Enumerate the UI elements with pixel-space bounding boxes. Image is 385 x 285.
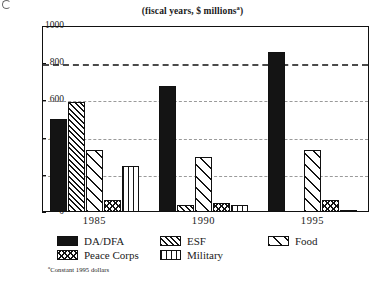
bar-1985-da-dfa <box>50 119 68 212</box>
y-axis-tick-label-800: 800 <box>30 58 64 68</box>
chart-legend: DA/DFAESFFoodPeace CorpsMilitary <box>57 234 367 262</box>
legend-label: ESF <box>187 236 206 247</box>
y-axis-tick-mark-400 <box>42 138 46 139</box>
bar-1995-military <box>340 210 358 212</box>
legend-swatch-solid-black-icon <box>57 236 78 246</box>
legend-swatch-vertical-lines-icon <box>160 250 181 260</box>
gridline-600 <box>43 101 368 102</box>
legend-item-da-dfa[interactable]: DA/DFA <box>57 236 160 247</box>
bar-1990-food <box>195 157 213 212</box>
bar-1985-food <box>86 150 104 212</box>
y-axis-tick-mark-800 <box>42 63 46 64</box>
chart-title-text: (fiscal years, $ millions <box>142 6 237 16</box>
legend-item-esf[interactable]: ESF <box>160 236 268 247</box>
legend-row: Peace CorpsMilitary <box>57 248 367 262</box>
bar-1990-peace-corps <box>213 203 231 212</box>
legend-swatch-crosshatch-icon <box>57 250 78 260</box>
bar-1995-peace-corps <box>322 200 340 212</box>
legend-item-peace-corps[interactable]: Peace Corps <box>57 250 160 261</box>
bar-1995-food <box>304 150 322 212</box>
y-axis-tick-label-600: 600 <box>30 95 64 105</box>
x-axis-tick-label-1985: 1985 <box>65 215 125 226</box>
bar-1995-da-dfa <box>268 52 286 212</box>
y-axis-tick-mark-0 <box>42 212 46 213</box>
y-axis-tick-mark-600 <box>42 100 46 101</box>
bar-1985-military <box>122 166 140 212</box>
y-axis-tick-mark-1000 <box>42 26 46 27</box>
chart-footnote: aConstant 1995 dollars <box>48 265 109 273</box>
y-axis-tick-label-1000: 1000 <box>30 21 64 31</box>
legend-item-food[interactable]: Food <box>268 236 363 247</box>
legend-label: Food <box>295 236 318 247</box>
chart-title-superscript: a <box>237 4 240 11</box>
legend-item-military[interactable]: Military <box>160 250 268 261</box>
legend-label: Peace Corps <box>84 250 139 261</box>
bar-1990-da-dfa <box>159 86 177 212</box>
legend-row: DA/DFAESFFood <box>57 234 367 248</box>
chart-title: (fiscal years, $ millionsa) <box>0 4 385 16</box>
footnote-text: Constant 1995 dollars <box>50 266 109 273</box>
gridline-400 <box>43 139 368 140</box>
x-axis-tick-label-1990: 1990 <box>174 215 234 226</box>
legend-swatch-sparse-diagonal-icon <box>268 236 289 246</box>
bar-1990-esf <box>177 205 195 212</box>
x-axis-tick-label-1995: 1995 <box>283 215 343 226</box>
legend-swatch-dense-diagonal-icon <box>160 236 181 246</box>
gridline-800 <box>43 64 368 66</box>
legend-label: Military <box>187 250 223 261</box>
bar-1990-military <box>231 205 249 212</box>
legend-label: DA/DFA <box>84 236 124 247</box>
bar-1985-peace-corps <box>104 200 122 212</box>
y-axis-tick-mark-200 <box>42 175 46 176</box>
bar-1985-esf <box>68 102 86 212</box>
